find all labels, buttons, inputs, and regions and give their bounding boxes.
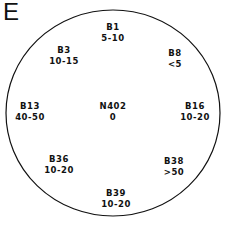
- site-name: B1: [101, 22, 124, 33]
- site-b39: B39 10-20: [101, 188, 131, 210]
- site-b8: B8 <5: [168, 48, 182, 70]
- site-name: B13: [15, 101, 45, 112]
- site-value: 40-50: [15, 112, 45, 123]
- site-value: 10-20: [101, 199, 131, 210]
- site-value: >50: [164, 167, 184, 178]
- site-name: N402: [100, 101, 127, 112]
- site-value: <5: [168, 59, 182, 70]
- center-site: N402 0: [100, 101, 127, 123]
- site-value: 10-15: [49, 56, 79, 67]
- site-name: B16: [180, 101, 210, 112]
- site-name: B38: [164, 156, 184, 167]
- site-b1: B1 5-10: [101, 22, 124, 44]
- site-value: 10-20: [44, 165, 74, 176]
- site-name: B39: [101, 188, 131, 199]
- site-b3: B3 10-15: [49, 45, 79, 67]
- site-b36: B36 10-20: [44, 154, 74, 176]
- site-value: 0: [100, 112, 127, 123]
- site-name: B36: [44, 154, 74, 165]
- site-name: B8: [168, 48, 182, 59]
- site-name: B3: [49, 45, 79, 56]
- site-b38: B38 >50: [164, 156, 184, 178]
- site-b13: B13 40-50: [15, 101, 45, 123]
- site-b16: B16 10-20: [180, 101, 210, 123]
- site-value: 5-10: [101, 33, 124, 44]
- site-value: 10-20: [180, 112, 210, 123]
